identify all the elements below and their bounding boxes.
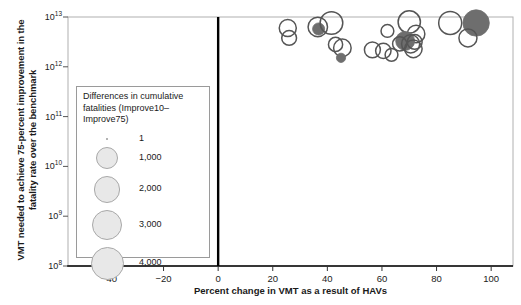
- x-tick-label: −20: [144, 273, 184, 284]
- x-tick-label: 60: [362, 273, 402, 284]
- legend-bubble: [96, 147, 118, 169]
- data-bubble: [463, 10, 489, 36]
- x-tick-label: 100: [471, 273, 511, 284]
- x-tick-label: 20: [253, 273, 293, 284]
- chart-container: VMT needed to achieve 75-percent improve…: [0, 0, 521, 305]
- data-bubble: [439, 11, 462, 34]
- x-axis-title: Percent change in VMT as a result of HAV…: [68, 285, 513, 296]
- data-bubble: [282, 31, 297, 46]
- legend-title: Differences in cumulative fatalities (Im…: [83, 91, 209, 126]
- legend-entry-label: 1,000: [139, 152, 162, 162]
- data-bubble: [381, 25, 394, 38]
- x-tick-label: 40: [307, 273, 347, 284]
- x-tick-label: 80: [417, 273, 457, 284]
- legend-entry-label: 1: [139, 133, 144, 143]
- legend-entry-label: 4,000: [139, 257, 162, 267]
- legend: Differences in cumulative fatalities (Im…: [76, 86, 210, 258]
- legend-bubble: [91, 247, 124, 280]
- data-bubble: [320, 12, 343, 35]
- legend-bubble: [92, 210, 122, 240]
- data-bubble: [313, 23, 325, 35]
- legend-entry-label: 3,000: [139, 219, 162, 229]
- legend-bubble: [94, 176, 121, 203]
- data-bubble: [279, 19, 296, 36]
- data-bubble: [398, 11, 420, 33]
- legend-entry-label: 2,000: [139, 183, 162, 193]
- data-bubble: [376, 43, 391, 58]
- data-bubble: [336, 53, 345, 62]
- x-tick-label: 0: [198, 273, 238, 284]
- legend-bubble: [106, 138, 108, 140]
